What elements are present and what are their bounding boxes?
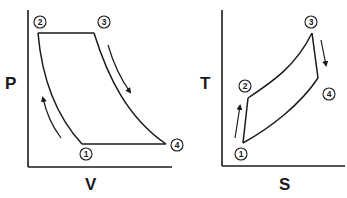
pv-point-3-label: 3 [98, 16, 110, 28]
svg-text:3: 3 [102, 17, 107, 27]
svg-text:3: 3 [309, 17, 314, 27]
pv-process-3-4 [94, 33, 166, 144]
pv-arrow-up-icon [43, 98, 61, 138]
svg-text:4: 4 [327, 89, 332, 99]
ts-arrow-up-icon [235, 106, 240, 138]
ts-process-2-3 [248, 33, 312, 98]
pv-point-2-label: 2 [34, 16, 46, 28]
svg-text:1: 1 [239, 149, 244, 159]
ts-point-1-label: 1 [235, 148, 247, 160]
ts-x-axis-label: S [279, 175, 290, 194]
ts-point-2-label: 2 [239, 80, 251, 92]
ts-point-3-label: 3 [305, 16, 317, 28]
svg-text:1: 1 [84, 149, 89, 159]
svg-text:4: 4 [175, 140, 180, 150]
pv-x-axis-label: V [85, 175, 97, 194]
pv-process-1-2 [38, 33, 82, 144]
ts-point-4-label: 4 [323, 88, 335, 100]
svg-text:2: 2 [38, 17, 43, 27]
pv-arrow-down-icon [108, 45, 130, 92]
ts-y-axis-label: T [200, 74, 211, 93]
ts-process-3-4 [312, 33, 318, 78]
thermodynamic-cycle-diagrams: P V 1 2 3 4 T S [0, 0, 347, 198]
pv-y-axis-label: P [5, 74, 16, 93]
ts-process-1-2 [243, 98, 248, 143]
pv-point-4-label: 4 [171, 139, 183, 151]
ts-arrow-down-icon [321, 40, 326, 65]
ts-process-4-1 [243, 78, 318, 143]
pv-diagram: P V 1 2 3 4 [5, 10, 183, 194]
pv-point-1-label: 1 [80, 148, 92, 160]
svg-text:2: 2 [243, 81, 248, 91]
ts-diagram: T S 1 2 3 4 [200, 10, 345, 194]
